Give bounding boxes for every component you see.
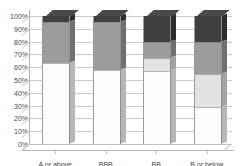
- bar-segment[interactable]: [144, 71, 170, 144]
- bar-segment[interactable]: [195, 16, 221, 42]
- bar-segment[interactable]: [195, 42, 221, 74]
- bar-front-face: [194, 16, 222, 144]
- floor-front-edge: [22, 150, 234, 151]
- bar-segment[interactable]: [43, 22, 69, 63]
- plot-area: [30, 16, 232, 144]
- bar-segment[interactable]: [43, 63, 69, 144]
- x-axis-tick: [55, 151, 56, 154]
- bar-segment[interactable]: [94, 22, 120, 69]
- chart-title: [0, 0, 241, 1]
- bar-segment[interactable]: [144, 16, 170, 42]
- y-axis-line: [29, 10, 30, 144]
- bar-front-face: [93, 16, 121, 144]
- x-axis-tick: [156, 151, 157, 154]
- bar-column[interactable]: [42, 16, 68, 144]
- x-axis-tick: [207, 151, 208, 154]
- bar-segment[interactable]: [94, 70, 120, 144]
- bar-segment[interactable]: [144, 58, 170, 71]
- bar-front-face: [143, 16, 171, 144]
- floor-back-edge: [30, 144, 232, 145]
- stacked-column-chart: 100%90%80%70%60%50%40%30%20%10%0% A or a…: [0, 0, 241, 166]
- bar-segment[interactable]: [144, 42, 170, 59]
- bar-front-face: [42, 16, 70, 144]
- bar-column[interactable]: [93, 16, 119, 144]
- bar-column[interactable]: [194, 16, 220, 144]
- x-axis-tick: [106, 151, 107, 154]
- bar-column[interactable]: [143, 16, 169, 144]
- bar-segment[interactable]: [195, 107, 221, 144]
- bar-segment[interactable]: [195, 74, 221, 107]
- x-axis-tick-label: B or below: [167, 161, 241, 166]
